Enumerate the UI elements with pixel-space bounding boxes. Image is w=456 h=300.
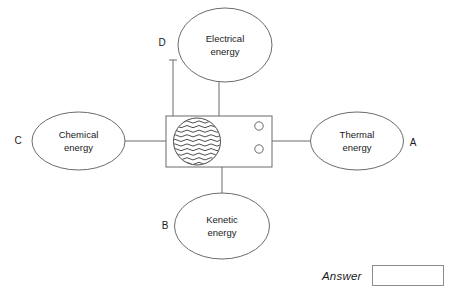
node-chemical-label-line1: Chemical [59,129,99,140]
node-kenetic-energy: Kenetic energy [175,193,270,259]
letter-label-a: A [410,137,417,148]
letter-label-d: D [158,37,165,48]
node-electrical-label-line1: Electrical [206,33,245,44]
answer-row: Answer [322,265,444,286]
indicator-circle-top [255,122,263,130]
answer-input[interactable] [372,265,444,286]
node-electrical-label-line2: energy [210,46,239,57]
answer-label: Answer [322,270,362,282]
node-thermal-label-line2: energy [342,142,371,153]
letter-label-b: B [162,220,169,231]
letter-label-c: C [14,135,21,146]
energy-diagram-canvas: Electrical energy D Chemical energy C Th… [0,0,456,300]
node-kenetic-label-line2: energy [207,227,236,238]
node-kenetic-label-line1: Kenetic [206,214,238,225]
pointer-line-d [169,60,177,116]
node-electrical-energy: Electrical energy [178,8,272,82]
node-chemical-label-line2: energy [64,142,93,153]
node-thermal-energy: Thermal energy [311,112,404,170]
node-thermal-label-line1: Thermal [340,129,375,140]
node-chemical-energy: Chemical energy [32,112,125,170]
indicator-circle-bottom [255,145,263,153]
